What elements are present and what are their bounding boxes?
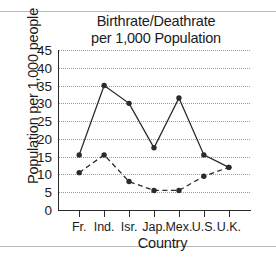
y-tick-label: 0 — [44, 203, 52, 218]
y-tick-label: 45 — [37, 43, 52, 58]
x-tick-label: Isr. — [121, 220, 138, 234]
top-divider-rule — [0, 11, 276, 12]
data-point-marker — [151, 145, 156, 150]
data-point-marker — [201, 152, 206, 157]
x-tick-label: U.K. — [217, 220, 241, 234]
data-point-marker — [176, 188, 181, 193]
x-tick-label: U.S. — [192, 220, 216, 234]
data-point-marker — [126, 101, 131, 106]
x-tick-mark — [129, 210, 130, 217]
data-point-marker — [76, 170, 81, 175]
y-tick-label: 35 — [37, 78, 52, 93]
series-line-deathrate — [79, 155, 229, 191]
y-tick-label: 15 — [37, 149, 52, 164]
data-point-marker — [226, 165, 231, 170]
data-point-marker — [176, 95, 181, 100]
y-tick-label: 5 — [44, 185, 52, 200]
y-tick-label: 10 — [37, 167, 52, 182]
x-tick-label: Mex. — [165, 220, 192, 234]
x-tick-mark — [154, 210, 155, 217]
data-point-marker — [101, 152, 106, 157]
y-tick-label: 25 — [37, 114, 52, 129]
x-tick-mark — [204, 210, 205, 217]
y-tick-label: 40 — [37, 60, 52, 75]
x-tick-mark — [79, 210, 80, 217]
data-point-marker — [126, 179, 131, 184]
data-point-marker — [201, 174, 206, 179]
x-tick-label: Jap. — [142, 220, 166, 234]
x-tick-mark — [104, 210, 105, 217]
data-point-marker — [151, 188, 156, 193]
x-axis-title: Country — [55, 235, 270, 251]
y-tick-label: 20 — [37, 131, 52, 146]
plot-area: 051015202530354045 Fr.Ind.Isr.Jap.Mex.U.… — [58, 50, 250, 210]
data-point-marker — [101, 83, 106, 88]
chart-title: Birthrate/Deathrate per 1,000 Population — [40, 13, 272, 47]
series-group — [58, 50, 250, 211]
x-tick-mark — [229, 210, 230, 217]
data-point-marker — [76, 152, 81, 157]
chart-title-line-1: Birthrate/Deathrate — [40, 13, 272, 30]
x-tick-label: Ind. — [94, 220, 115, 234]
chart-title-line-2: per 1,000 Population — [40, 30, 272, 47]
x-tick-mark — [179, 210, 180, 217]
x-tick-label: Fr. — [72, 220, 87, 234]
chart-figure: Birthrate/Deathrate per 1,000 Population… — [0, 0, 276, 268]
y-tick-label: 30 — [37, 96, 52, 111]
